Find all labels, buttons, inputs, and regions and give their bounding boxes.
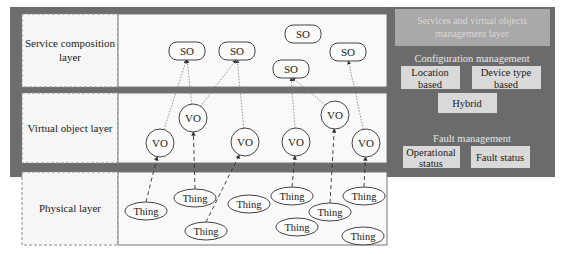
- fault-status-label: Fault status: [476, 152, 524, 163]
- configuration-management-title: Configuration management: [414, 53, 529, 64]
- service-object-node: SO: [169, 42, 205, 60]
- service-object-label: SO: [230, 45, 244, 57]
- virtual-object-node: VO: [321, 101, 349, 129]
- virtual-object-label: VO: [327, 109, 343, 121]
- thing-label: Thing: [284, 222, 310, 233]
- operational-status-line2: status: [419, 158, 443, 169]
- thing-node: Thing: [343, 187, 385, 205]
- hybrid-label: Hybrid: [452, 98, 482, 109]
- thing-label: Thing: [182, 193, 208, 204]
- virtual-object-node: VO: [179, 104, 207, 132]
- thing-node: Thing: [342, 227, 384, 245]
- virtual-object-node: VO: [352, 129, 380, 157]
- device-type-based-line2: based: [494, 79, 519, 90]
- service-object-node: SO: [219, 42, 255, 60]
- operational-status-box: Operational status: [403, 146, 460, 169]
- thing-node: Thing: [185, 222, 227, 240]
- thing-node: Thing: [228, 195, 270, 213]
- thing-label: Thing: [279, 191, 305, 202]
- service-composition-label-line1: Service composition: [25, 37, 116, 49]
- thing-label: Thing: [133, 206, 159, 217]
- virtual-object-layer-label: Virtual object layer: [28, 122, 113, 134]
- management-title-line1: Services and virtual objects: [417, 15, 527, 26]
- virtual-object-label: VO: [185, 112, 201, 124]
- thing-node: Thing: [309, 203, 351, 221]
- service-composition-label-line2: layer: [59, 51, 81, 63]
- thing-label: Thing: [236, 199, 262, 210]
- thing-label: Thing: [351, 191, 377, 202]
- location-based-line2: based: [418, 79, 443, 90]
- virtual-object-node: VO: [146, 129, 174, 157]
- service-object-label: SO: [341, 46, 355, 58]
- device-type-based-box: Device type based: [472, 66, 541, 90]
- hybrid-box: Hybrid: [438, 93, 497, 113]
- virtual-object-node: VO: [282, 128, 310, 156]
- management-title-line2: management layer: [435, 28, 509, 39]
- location-based-line1: Location: [411, 67, 449, 78]
- thing-label: Thing: [317, 207, 343, 218]
- fault-status-box: Fault status: [471, 146, 530, 168]
- device-type-based-line1: Device type: [481, 67, 532, 78]
- architecture-diagram: Service composition layer Virtual object…: [0, 0, 563, 254]
- thing-node: Thing: [271, 187, 313, 205]
- fault-management-title: Fault management: [433, 133, 511, 144]
- virtual-object-label: VO: [237, 136, 253, 148]
- thing-node: Thing: [174, 189, 216, 207]
- service-object-node: SO: [330, 43, 366, 61]
- thing-label: Thing: [193, 226, 219, 237]
- thing-node: Thing: [276, 218, 318, 236]
- service-object-node: SO: [285, 25, 321, 43]
- virtual-object-label: VO: [358, 137, 374, 149]
- service-object-label: SO: [296, 28, 310, 40]
- service-object-node: SO: [273, 60, 309, 78]
- thing-node: Thing: [125, 202, 167, 220]
- operational-status-line1: Operational: [406, 147, 456, 158]
- thing-label: Thing: [350, 231, 376, 242]
- service-object-label: SO: [180, 45, 194, 57]
- location-based-box: Location based: [401, 66, 460, 90]
- service-object-label: SO: [284, 63, 298, 75]
- physical-layer-label: Physical layer: [39, 202, 101, 214]
- virtual-object-node: VO: [231, 128, 259, 156]
- virtual-object-label: VO: [288, 136, 304, 148]
- virtual-object-label: VO: [152, 137, 168, 149]
